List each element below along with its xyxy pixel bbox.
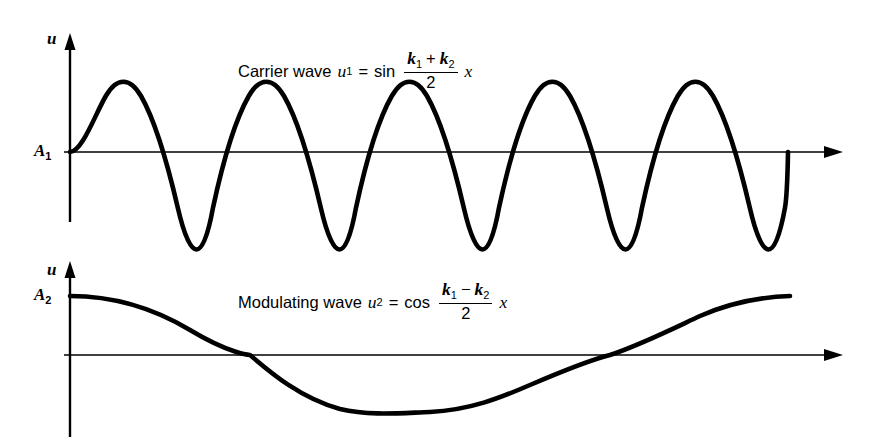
carrier-function-variable: u [338,63,347,81]
carrier-equals-sign: = [352,63,374,80]
carrier-amplitude-subscript: 1 [45,150,51,162]
modulating-y-axis [65,261,76,437]
carrier-trig-function: sin [374,63,400,80]
modulating-function-variable: u [368,294,377,312]
modulating-fraction: k1−k2 2 [439,280,492,323]
modulating-numerator-k2: k [475,279,484,299]
modulating-caption-text: Modulating wave [238,294,362,311]
modulating-numerator-k2-subscript: 2 [483,289,489,301]
modulating-amplitude-subscript: 2 [45,294,51,306]
modulating-x-axis [64,349,843,361]
carrier-fraction-numerator: k1+k2 [404,49,457,72]
carrier-equation: Carrier wave u1 = sin k1+k2 2 x [238,50,472,93]
carrier-wave-caption: Carrier wave u1 = sin k1+k2 2 x [238,50,472,93]
modulating-wave-caption: Modulating wave u2 = cos k1−k2 2 x [238,281,507,324]
modulating-amplitude-label: A2 [34,286,51,306]
carrier-amplitude-label: A1 [34,142,51,162]
carrier-argument-variable: x [462,63,473,81]
modulating-equals-sign: = [383,294,405,311]
modulating-fraction-numerator: k1−k2 [439,280,492,303]
modulating-numerator-operator: − [457,280,475,298]
modulating-trig-function: cos [404,294,435,311]
carrier-caption-text: Carrier wave [238,63,332,80]
carrier-x-axis [64,146,843,158]
carrier-amplitude-letter: A [34,141,45,160]
carrier-numerator-operator: + [422,49,440,67]
carrier-fraction: k1+k2 2 [404,49,457,92]
carrier-y-axis [65,33,76,222]
carrier-numerator-k1: k [407,48,416,68]
carrier-numerator-k2-subscript: 2 [448,58,454,70]
carrier-y-axis-label: u [47,30,56,47]
modulating-numerator-k1: k [442,279,451,299]
carrier-wave-curve [70,82,788,250]
modulating-argument-variable: x [496,294,507,312]
modulating-fraction-denominator: 2 [458,304,473,322]
modulating-y-axis-label: u [47,261,56,278]
modulating-numerator-k1-subscript: 1 [451,289,457,301]
modulating-amplitude-letter: A [34,285,45,304]
modulating-equation: Modulating wave u2 = cos k1−k2 2 x [238,281,507,324]
carrier-fraction-denominator: 2 [423,73,438,91]
wave-figure: u A1 u A2 Carrier wave u1 = sin k1+k2 2 … [0,0,888,446]
